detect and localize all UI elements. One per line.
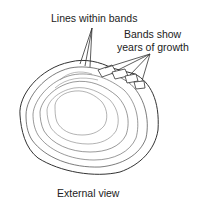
lines-within-bands-label: Lines within bands [51,12,137,24]
bands-label-line2: years of growth [117,41,189,53]
bands-label-line1: Bands show [124,28,181,40]
external-view-caption: External view [57,187,119,199]
